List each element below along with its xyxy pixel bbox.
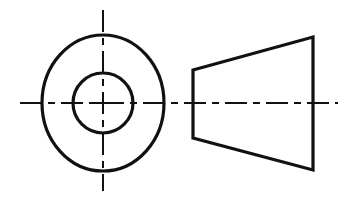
front-view xyxy=(42,10,164,191)
drawing-svg xyxy=(0,0,349,199)
technical-drawing-canvas xyxy=(0,0,349,199)
